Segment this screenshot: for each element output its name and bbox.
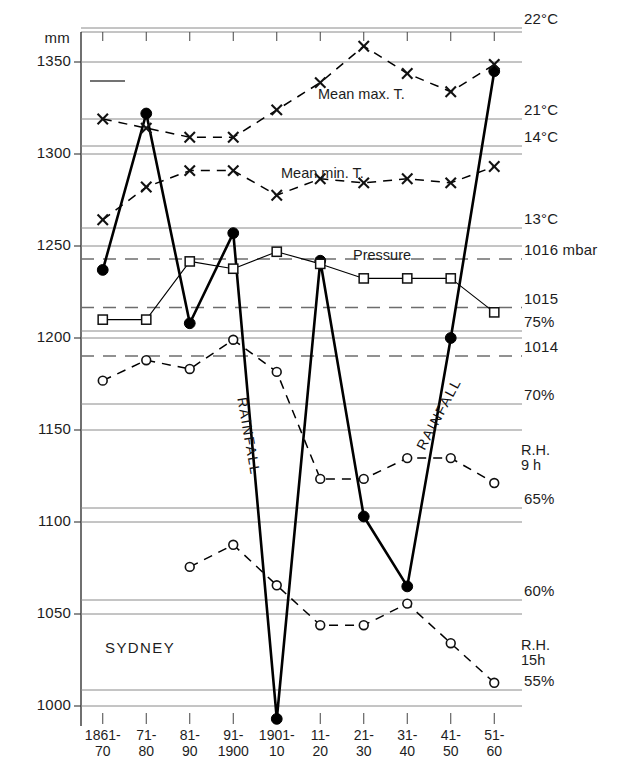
series-label-rh-15h-line1: R.H. bbox=[521, 638, 550, 653]
y-axis-left-tick: 1050 bbox=[0, 604, 71, 621]
series-label-rh-15h: R.H.15h bbox=[521, 638, 550, 668]
y-axis-left-tick: 1300 bbox=[0, 144, 71, 161]
x-tick-label-top: 51- bbox=[460, 727, 528, 743]
y-axis-right-label: 21°C bbox=[524, 101, 558, 118]
y-axis-right-label: 1015 bbox=[524, 290, 558, 307]
y-axis-left-tick: 1100 bbox=[0, 512, 71, 529]
series-label-rh-9h: R.H.9 h bbox=[521, 443, 550, 473]
y-axis-right-label: 75% bbox=[524, 313, 555, 330]
chart-city-label: SYDNEY bbox=[105, 639, 175, 656]
y-axis-right-label: 1016 mbar bbox=[524, 241, 598, 258]
y-axis-left-tick: 1250 bbox=[0, 236, 71, 253]
y-axis-right-label: 55% bbox=[524, 672, 555, 689]
y-axis-left-tick: 1000 bbox=[0, 696, 71, 713]
series-label-rh-15h-line2: 15h bbox=[521, 653, 550, 668]
y-axis-right-label: 70% bbox=[524, 386, 555, 403]
y-axis-right-label: 1014 bbox=[524, 338, 558, 355]
x-tick-label: 51-60 bbox=[460, 727, 528, 759]
climate-chart: mm13501300125012001150110010501000 22°C2… bbox=[0, 0, 634, 781]
y-axis-unit-label: mm bbox=[0, 29, 70, 46]
y-axis-right-label: 65% bbox=[524, 490, 555, 507]
y-axis-left-tick: 1200 bbox=[0, 328, 71, 345]
series-label-mean-max-t: Mean max. T. bbox=[318, 86, 405, 102]
series-label-rh-9h-line1: R.H. bbox=[521, 443, 550, 458]
series-label-rh-9h-line2: 9 h bbox=[521, 458, 550, 473]
y-axis-right-label: 60% bbox=[524, 582, 555, 599]
series-mean-max-t bbox=[98, 41, 500, 142]
y-axis-left-tick: 1350 bbox=[0, 52, 71, 69]
y-axis-right-label: 14°C bbox=[524, 128, 558, 145]
y-axis-right-label: 22°C bbox=[524, 10, 558, 27]
series-label-mean-min-t: Mean min. T. bbox=[281, 165, 364, 181]
y-axis-right-label: 13°C bbox=[524, 210, 558, 227]
y-axis-left-tick: 1150 bbox=[0, 420, 71, 437]
series-label-pressure: Pressure bbox=[353, 247, 411, 263]
x-tick-label-bottom: 60 bbox=[460, 743, 528, 759]
